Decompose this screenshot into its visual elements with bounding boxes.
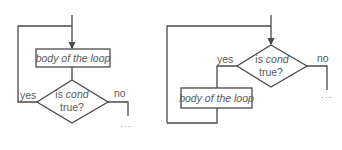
condition-label-line2: true?	[60, 101, 84, 113]
loop-flowcharts: body of the loop is cond true? yes no ..…	[0, 0, 342, 150]
while-flowchart: is cond true? yes body of the loop no ..…	[167, 15, 333, 123]
body-return-line	[167, 108, 217, 123]
yes-label: yes	[20, 89, 36, 101]
condition-label: is cond	[55, 88, 89, 100]
no-label: no	[317, 52, 329, 64]
continuation-ellipsis: ...	[321, 90, 333, 100]
condition-label-line2: true?	[259, 66, 283, 78]
loop-body-label: body of the loop	[179, 92, 254, 104]
no-exit-line	[108, 102, 128, 116]
no-exit-line	[307, 66, 327, 90]
do-while-flowchart: body of the loop is cond true? yes no ..…	[18, 15, 132, 129]
condition-label: is cond	[255, 53, 289, 65]
continuation-ellipsis: ...	[120, 119, 132, 129]
yes-line	[217, 66, 237, 88]
loop-body-label: body of the loop	[36, 52, 111, 64]
yes-label: yes	[217, 53, 233, 65]
no-label: no	[114, 87, 126, 99]
